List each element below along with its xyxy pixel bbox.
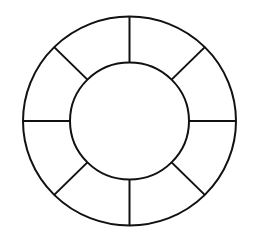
segmented-ring-diagram xyxy=(0,0,254,238)
inner-circle xyxy=(70,63,189,180)
